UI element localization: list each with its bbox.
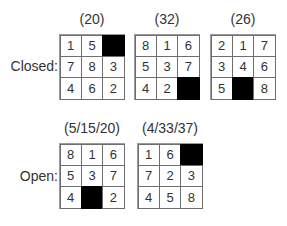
number-tile: 6 — [81, 77, 103, 99]
number-tile: 3 — [81, 165, 103, 187]
number-tile: 1 — [81, 144, 103, 166]
number-tile: 5 — [135, 56, 157, 78]
number-tile: 4 — [138, 186, 160, 208]
number-tile: 8 — [60, 144, 82, 166]
number-tile: 7 — [253, 35, 275, 57]
number-tile: 7 — [60, 56, 82, 78]
puzzle-caption: (32) — [127, 11, 207, 27]
number-tile: 5 — [60, 165, 82, 187]
number-tile: 7 — [102, 165, 124, 187]
number-tile: 3 — [102, 56, 124, 78]
puzzle-caption: (20) — [52, 11, 132, 27]
number-tile: 3 — [211, 56, 233, 78]
blank-tile — [180, 144, 202, 166]
blank-tile — [177, 77, 199, 99]
number-tile: 2 — [156, 77, 178, 99]
blank-tile — [102, 35, 124, 57]
number-tile: 1 — [138, 144, 160, 166]
number-tile: 2 — [159, 165, 181, 187]
number-tile: 4 — [135, 77, 157, 99]
puzzle-caption: (4/33/37) — [130, 120, 210, 136]
number-tile: 2 — [102, 77, 124, 99]
number-tile: 5 — [81, 35, 103, 57]
number-tile: 8 — [81, 56, 103, 78]
number-tile: 1 — [232, 35, 254, 57]
number-tile: 3 — [180, 165, 202, 187]
puzzle-grid: 81653742 — [134, 34, 200, 100]
number-tile: 6 — [102, 144, 124, 166]
blank-tile — [81, 186, 103, 208]
number-tile: 6 — [177, 35, 199, 57]
puzzle-grid: 21734658 — [210, 34, 276, 100]
number-tile: 6 — [159, 144, 181, 166]
number-tile: 8 — [135, 35, 157, 57]
puzzle-caption: (5/15/20) — [52, 120, 132, 136]
number-tile: 8 — [253, 77, 275, 99]
number-tile: 4 — [60, 186, 82, 208]
puzzle-grid: 81653742 — [59, 143, 125, 209]
number-tile: 7 — [138, 165, 160, 187]
number-tile: 8 — [180, 186, 202, 208]
blank-tile — [232, 77, 254, 99]
puzzle-grid: 16723458 — [137, 143, 203, 209]
number-tile: 3 — [156, 56, 178, 78]
row-label-open: Open: — [2, 168, 58, 184]
puzzle-grid: 15783462 — [59, 34, 125, 100]
number-tile: 2 — [211, 35, 233, 57]
number-tile: 2 — [102, 186, 124, 208]
number-tile: 7 — [177, 56, 199, 78]
number-tile: 5 — [211, 77, 233, 99]
number-tile: 1 — [60, 35, 82, 57]
number-tile: 1 — [156, 35, 178, 57]
number-tile: 5 — [159, 186, 181, 208]
number-tile: 4 — [60, 77, 82, 99]
number-tile: 6 — [253, 56, 275, 78]
row-label-closed: Closed: — [2, 58, 58, 74]
number-tile: 4 — [232, 56, 254, 78]
puzzle-caption: (26) — [203, 11, 283, 27]
